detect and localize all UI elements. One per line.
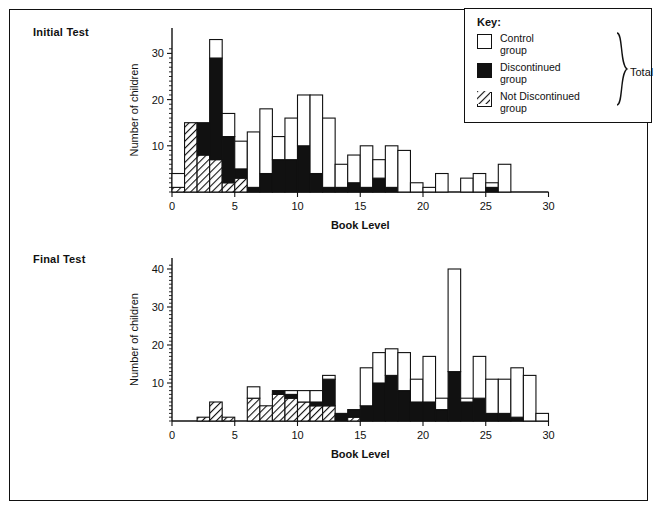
bar-segment-control — [486, 183, 499, 188]
bar-segment-not-discontinued — [210, 402, 223, 421]
bar-segment-control — [536, 413, 549, 421]
bar-segment-control — [511, 368, 524, 417]
bar-segment-control — [272, 137, 285, 160]
bar-segment-control — [398, 150, 411, 192]
bar-segment-control — [373, 160, 386, 178]
bar-segment-not-discontinued — [348, 417, 361, 421]
y-tick-label: 20 — [152, 339, 164, 351]
legend-discontinued-line1: Discontinued — [500, 61, 561, 73]
bar-segment-discontinued — [385, 187, 398, 192]
y-axis-title: Number of children — [128, 293, 140, 386]
bar-segment-discontinued — [197, 123, 210, 155]
bar-segment-discontinued — [285, 160, 298, 192]
bar-segment-control — [222, 113, 235, 136]
bar-segment-discontinued — [310, 174, 323, 192]
bar-segment-discontinued — [235, 169, 248, 178]
x-axis-title: Book Level — [331, 219, 390, 231]
bar-segment-control — [360, 368, 373, 406]
right-curly-brace-icon — [615, 31, 629, 107]
x-tick-label: 25 — [480, 429, 492, 441]
y-tick-label: 20 — [152, 94, 164, 106]
open-square-icon — [477, 34, 492, 49]
x-tick-label: 15 — [354, 429, 366, 441]
legend-discontinued-line2: group — [500, 74, 561, 86]
bar-segment-control — [323, 375, 336, 379]
bar-segment-not-discontinued — [260, 406, 273, 421]
bar-segment-control — [310, 391, 323, 402]
bar-segment-control — [260, 109, 273, 174]
x-tick-label: 10 — [291, 429, 303, 441]
bar-segment-control — [247, 132, 260, 187]
bar-segment-not-discontinued — [323, 406, 336, 421]
y-tick-label: 30 — [152, 301, 164, 313]
bar-segment-control — [298, 391, 311, 402]
bar-segment-control — [172, 174, 185, 188]
bar-segment-discontinued — [473, 398, 486, 421]
bar-segment-control — [498, 379, 511, 413]
bar-segment-control — [348, 155, 361, 183]
bar-segment-not-discontinued — [222, 417, 235, 421]
x-tick-label: 25 — [480, 200, 492, 212]
x-tick-label: 30 — [542, 429, 554, 441]
bar-segment-discontinued — [373, 383, 386, 421]
bar-segment-discontinued — [310, 402, 323, 406]
y-axis-title: Number of children — [128, 64, 140, 157]
figure-page: Initial Test Final Test 1020300510152025… — [0, 0, 661, 515]
bar-segment-discontinued — [323, 187, 336, 192]
filled-square-icon — [477, 63, 492, 78]
bar-segment-discontinued — [498, 413, 511, 421]
x-tick-label: 30 — [542, 200, 554, 212]
legend-item-not-discontinued-label: Not Discontinued group — [500, 91, 580, 114]
legend-item-discontinued: Discontinued group — [477, 62, 561, 85]
bar-segment-control — [410, 379, 423, 402]
bar-segment-control — [473, 356, 486, 398]
bar-segment-control — [523, 375, 536, 421]
x-axis-title: Book Level — [331, 448, 390, 460]
bar-segment-control — [410, 183, 423, 192]
bar-segment-not-discontinued — [185, 123, 198, 192]
bar-segment-not-discontinued — [272, 394, 285, 421]
bar-segment-control — [323, 118, 336, 187]
legend-total-label: Total — [630, 66, 653, 78]
bar-segment-control — [436, 174, 449, 192]
bar-segment-discontinued — [323, 379, 336, 406]
bar-segment-control — [360, 146, 373, 188]
hatch-fill-icon — [477, 91, 490, 104]
x-tick-label: 20 — [417, 200, 429, 212]
x-tick-label: 10 — [291, 200, 303, 212]
legend-control-line1: Control — [500, 32, 534, 44]
bar-segment-not-discontinued — [222, 183, 235, 192]
legend-item-control: Control group — [477, 33, 534, 56]
bar-segment-discontinued — [335, 187, 348, 192]
bar-segment-discontinued — [247, 187, 260, 192]
bar-segment-discontinued — [210, 58, 223, 160]
bar-segment-discontinued — [486, 187, 499, 192]
bar-segment-not-discontinued — [298, 402, 311, 421]
bar-segment-discontinued — [298, 146, 311, 192]
bar-segment-control — [436, 398, 449, 409]
legend-item-not-discontinued: Not Discontinued group — [477, 91, 580, 114]
bar-segment-discontinued — [285, 394, 298, 398]
bar-segment-control — [385, 146, 398, 188]
x-tick-label: 0 — [169, 200, 175, 212]
y-tick-label: 10 — [152, 140, 164, 152]
bar-segment-control — [385, 349, 398, 376]
bar-segment-discontinued — [272, 160, 285, 192]
bar-segment-control — [498, 164, 511, 192]
bar-segment-discontinued — [373, 178, 386, 192]
bar-segment-discontinued — [222, 137, 235, 183]
x-tick-label: 5 — [232, 429, 238, 441]
bar-segment-control — [285, 391, 298, 395]
plot-area-final: 10203040051015202530Book LevelNumber of … — [128, 258, 555, 460]
bar-segment-not-discontinued — [310, 406, 323, 421]
legend-key-box: Key: Control group Discontinued group No — [464, 8, 652, 123]
bar-segment-discontinued — [436, 410, 449, 421]
legend-item-discontinued-label: Discontinued group — [500, 62, 561, 85]
bar-segment-not-discontinued — [172, 187, 185, 192]
hatched-square-icon — [477, 92, 492, 107]
bar-segment-control — [235, 141, 248, 169]
bar-segment-control — [210, 40, 223, 58]
bar-segment-control — [310, 95, 323, 174]
bar-segment-discontinued — [423, 402, 436, 421]
bar-segment-discontinued — [272, 391, 285, 395]
